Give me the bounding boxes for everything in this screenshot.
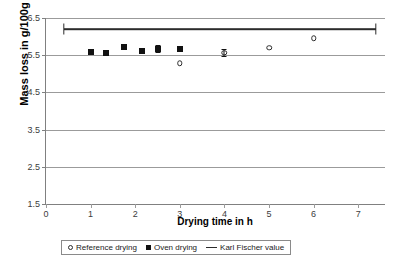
data-point (103, 50, 109, 56)
line-icon (206, 247, 217, 249)
y-tick-mark (42, 55, 46, 56)
x-axis-title: Drying time in h (45, 216, 385, 227)
karl-fischer-line (64, 28, 376, 30)
data-point (139, 48, 145, 54)
y-tick-label: 1.5 (27, 199, 40, 209)
chart-container: Mass loss in g/100g 1.52.53.54.55.56.501… (0, 0, 404, 264)
chart-legend: Reference dryingOven dryingKarl Fischer … (61, 240, 291, 255)
legend-item: Reference drying (68, 243, 137, 252)
data-point (311, 36, 317, 42)
legend-item: Karl Fischer value (206, 243, 284, 252)
x-tick-mark (135, 204, 136, 208)
x-tick-mark (269, 204, 270, 208)
y-tick-mark (42, 92, 46, 93)
x-tick-mark (180, 204, 181, 208)
karl-fischer-line-cap (375, 24, 376, 35)
data-point (266, 45, 272, 51)
legend-item-label: Oven drying (154, 243, 197, 252)
data-point (222, 50, 228, 56)
x-tick-mark (46, 204, 47, 208)
x-tick-mark (91, 204, 92, 208)
gridline (46, 92, 385, 93)
y-tick-mark (42, 130, 46, 131)
open-circle-icon (68, 245, 73, 250)
x-tick-mark (358, 204, 359, 208)
gridline (46, 18, 385, 19)
data-point (155, 46, 161, 52)
x-tick-mark (224, 204, 225, 208)
plot-area: 1.52.53.54.55.56.501234567 (45, 18, 385, 205)
filled-square-icon (146, 245, 151, 250)
legend-item-label: Karl Fischer value (220, 243, 284, 252)
gridline (46, 167, 385, 168)
data-point (88, 49, 94, 55)
karl-fischer-line-cap (63, 24, 64, 35)
y-tick-label: 2.5 (27, 162, 40, 172)
y-tick-label: 5.5 (27, 50, 40, 60)
y-tick-mark (42, 18, 46, 19)
legend-item-label: Reference drying (76, 243, 137, 252)
gridline (46, 130, 385, 131)
error-bar-cap (222, 56, 227, 57)
data-point (177, 61, 183, 67)
data-point (177, 46, 183, 52)
y-tick-mark (42, 167, 46, 168)
data-point (121, 44, 127, 50)
y-tick-label: 6.5 (27, 13, 40, 23)
gridline (46, 55, 385, 56)
y-tick-label: 3.5 (27, 125, 40, 135)
y-tick-label: 4.5 (27, 87, 40, 97)
error-bar-cap (155, 52, 160, 53)
x-tick-mark (314, 204, 315, 208)
legend-item: Oven drying (146, 243, 197, 252)
